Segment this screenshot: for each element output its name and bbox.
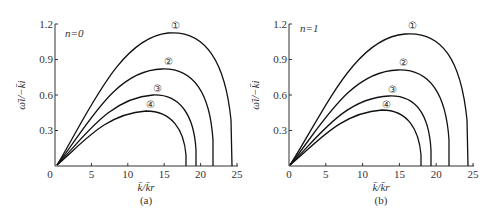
curve-label-3: ③ (153, 83, 162, 94)
x-tick-label: 0 (286, 168, 292, 180)
x-tick-label: 5 (323, 168, 329, 180)
curve-label-4: ④ (146, 99, 155, 110)
y-tick-label: 0.6 (273, 89, 287, 101)
panel-caption: (b) (375, 194, 388, 207)
curves (290, 34, 468, 166)
curve-label-2: ② (164, 56, 173, 67)
x-tick-label: 0 (47, 168, 53, 180)
y-tick-label: 0.9 (273, 53, 287, 65)
x-tick-label: 20 (195, 168, 207, 180)
x-tick-label: 10 (357, 168, 369, 180)
curve-label-1: ① (408, 20, 417, 31)
curve-label-4: ④ (382, 99, 391, 110)
annotation-n: n=1 (300, 22, 318, 34)
panel-caption: (a) (140, 194, 153, 207)
y-tick-label: 1.2 (39, 18, 53, 30)
x-tick-label: 15 (159, 168, 171, 180)
x-tick-label: 20 (431, 168, 443, 180)
annotation-n: n=0 (65, 27, 84, 39)
x-tick-label: 25 (232, 168, 244, 180)
curve-label-3: ③ (388, 84, 397, 95)
x-tick-label: 10 (122, 168, 134, 180)
x-tick-label: 25 (468, 168, 480, 180)
y-axis-label: ω̄i/−k̄i (249, 80, 261, 109)
curves (57, 33, 232, 166)
curve-label-2: ② (399, 57, 408, 68)
x-axis-label: k̄/k̄r (137, 181, 155, 193)
curve-label-1: ① (171, 20, 180, 31)
y-tick-label: 0.3 (273, 124, 287, 136)
panel-b: 1.2 0.9 0.6 0.3 0 5 10 15 20 25 k̄/k̄r (… (249, 18, 479, 207)
figure: 1.2 0.9 0.6 0.3 0 5 10 15 20 25 k̄/k̄r (… (0, 0, 497, 216)
y-tick-label: 0.9 (39, 53, 53, 65)
y-tick-label: 0.3 (39, 124, 53, 136)
panel-a: 1.2 0.9 0.6 0.3 0 5 10 15 20 25 k̄/k̄r (… (15, 18, 243, 207)
y-tick-label: 0.6 (39, 89, 53, 101)
y-axis-label: ω̄i/−k̄i (15, 80, 27, 109)
y-tick-label: 1.2 (273, 18, 287, 30)
x-tick-label: 15 (394, 168, 406, 180)
x-tick-label: 5 (89, 168, 95, 180)
x-axis-label: k̄/k̄r (372, 181, 390, 193)
